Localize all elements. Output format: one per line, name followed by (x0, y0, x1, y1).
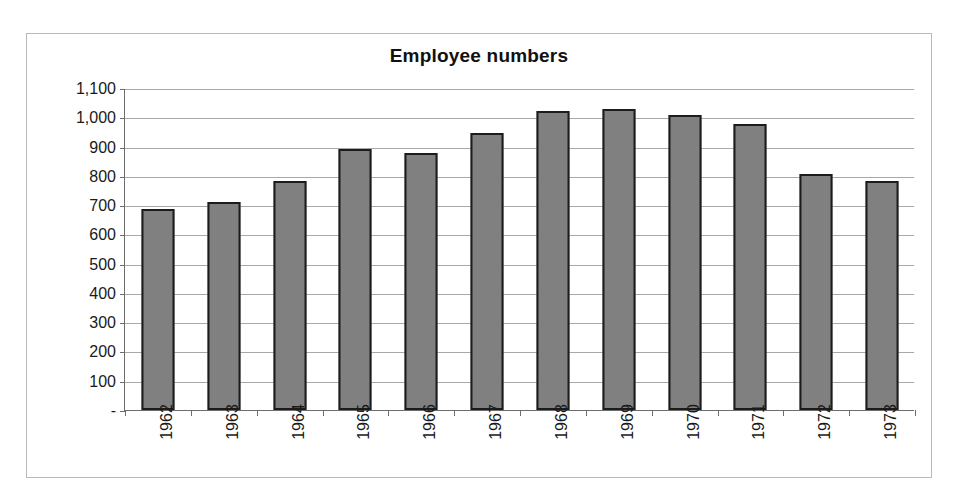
x-tick-mark (323, 410, 324, 416)
bar-slot (125, 89, 191, 410)
bar[interactable] (273, 181, 306, 410)
bar[interactable] (866, 181, 899, 410)
bar-slot (718, 89, 784, 410)
x-axis-label: 1967 (487, 404, 505, 440)
bar[interactable] (405, 153, 438, 410)
x-axis-label: 1966 (421, 404, 439, 440)
x-tick-mark (586, 410, 587, 416)
y-axis-label: 500 (89, 256, 116, 274)
x-axis-label: 1964 (290, 404, 308, 440)
x-tick-mark (652, 410, 653, 416)
y-axis-label: - (111, 402, 116, 420)
bar-slot (783, 89, 849, 410)
x-axis-label: 1973 (882, 404, 900, 440)
bar[interactable] (602, 109, 635, 411)
x-axis-label: 1962 (158, 404, 176, 440)
y-axis-label: 600 (89, 226, 116, 244)
x-tick-mark (257, 410, 258, 416)
x-tick-mark (125, 410, 126, 416)
x-axis-label: 1971 (750, 404, 768, 440)
bar[interactable] (734, 124, 767, 410)
bar-slot (191, 89, 257, 410)
x-axis-label: 1968 (553, 404, 571, 440)
x-tick-mark (915, 410, 916, 416)
x-tick-mark (191, 410, 192, 416)
y-axis-label: 700 (89, 197, 116, 215)
x-tick-mark (388, 410, 389, 416)
bar-slot (323, 89, 389, 410)
bar-slot (454, 89, 520, 410)
x-tick-mark (520, 410, 521, 416)
bar[interactable] (207, 202, 240, 410)
bar[interactable] (339, 149, 372, 410)
bar[interactable] (471, 133, 504, 410)
y-axis-label: 900 (89, 139, 116, 157)
bar-slot (849, 89, 915, 410)
bar[interactable] (800, 174, 833, 410)
y-axis-label: 400 (89, 285, 116, 303)
bar-slot (520, 89, 586, 410)
x-tick-mark (849, 410, 850, 416)
chart-frame: Employee numbers 1,1001,0009008007006005… (26, 33, 932, 478)
bar[interactable] (141, 209, 174, 410)
bar-slot (586, 89, 652, 410)
y-axis-label: 1,100 (76, 80, 116, 98)
x-axis-label: 1963 (224, 404, 242, 440)
x-tick-mark (783, 410, 784, 416)
y-axis-label: 100 (89, 373, 116, 391)
y-axis-label: 1,000 (76, 109, 116, 127)
x-axis-label: 1965 (355, 404, 373, 440)
x-tick-mark (718, 410, 719, 416)
y-axis-label: 200 (89, 343, 116, 361)
x-axis-label: 1969 (619, 404, 637, 440)
plot-area: 1,1001,000900800700600500400300200100- 1… (124, 89, 914, 411)
bar-slot (652, 89, 718, 410)
bar[interactable] (668, 115, 701, 410)
y-axis-label: 300 (89, 314, 116, 332)
chart-title: Employee numbers (27, 45, 931, 67)
bar[interactable] (536, 111, 569, 410)
bar-slot (388, 89, 454, 410)
x-axis-label: 1972 (816, 404, 834, 440)
x-tick-mark (454, 410, 455, 416)
bar-slot (257, 89, 323, 410)
y-axis-label: 800 (89, 168, 116, 186)
x-axis-label: 1970 (685, 404, 703, 440)
